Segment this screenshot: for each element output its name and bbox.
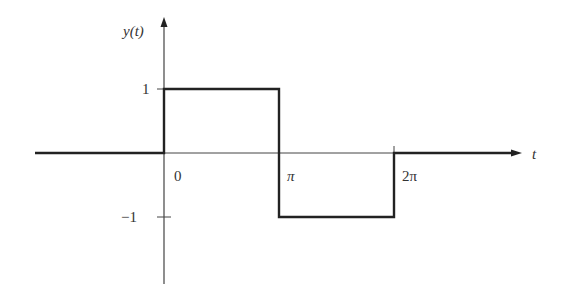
y-axis-label: y(t) — [121, 23, 144, 40]
x-tick-label-0: 0 — [174, 168, 182, 184]
x-axis-label: t — [532, 146, 537, 162]
y-tick-label-minus1: −1 — [121, 209, 137, 225]
x-tick-label-2pi: 2π — [402, 168, 418, 184]
y-axis-arrow-icon — [161, 17, 168, 27]
x-tick-label-pi: π — [287, 168, 295, 184]
signal-plot: y(t) t 1 −1 0 π 2π — [0, 0, 573, 299]
y-tick-label-1: 1 — [142, 81, 150, 97]
